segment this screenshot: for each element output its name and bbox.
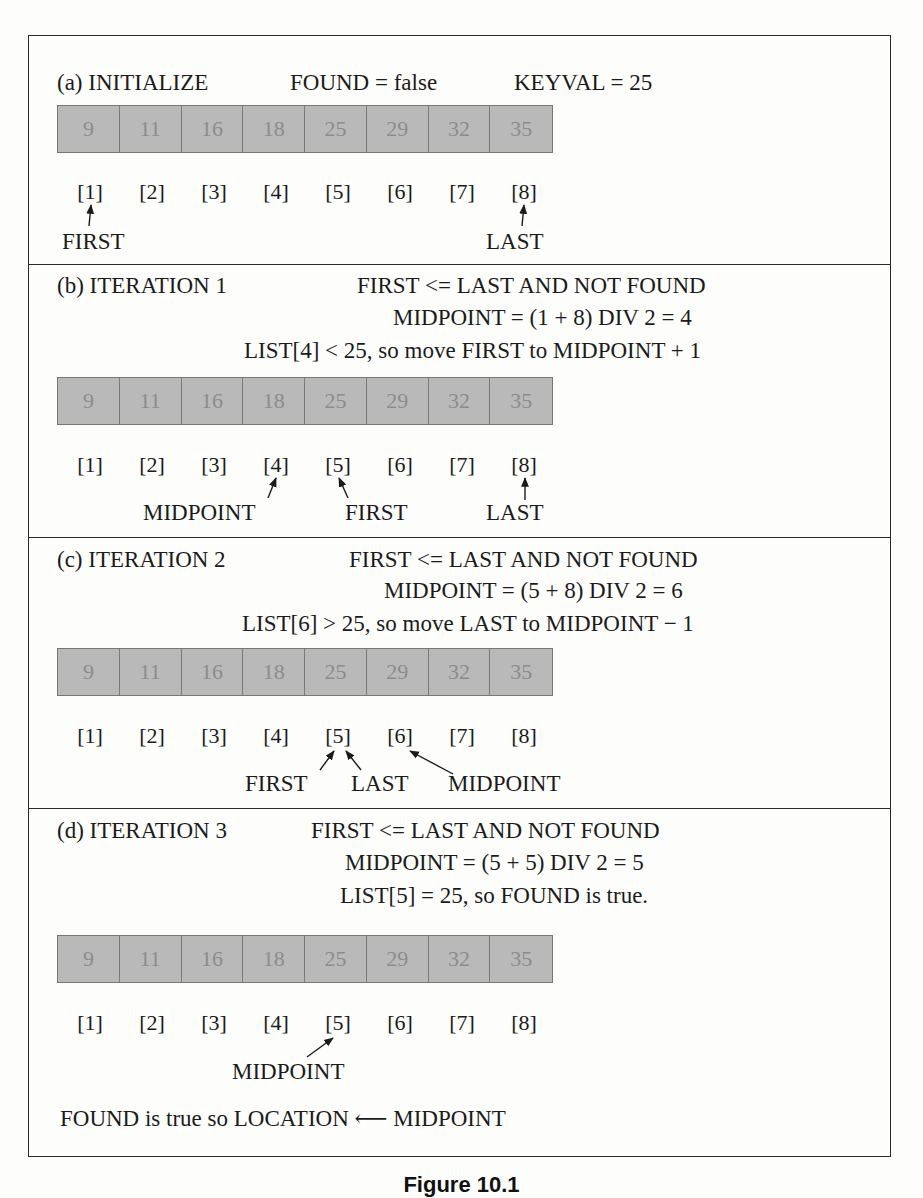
list-cell: 25 <box>305 936 367 982</box>
list-cell: 16 <box>182 378 244 424</box>
list-array: 9 11 16 18 25 29 32 35 <box>57 935 553 983</box>
index-label: [7] <box>431 453 493 477</box>
index-label: [1] <box>59 1011 121 1035</box>
list-cell: 25 <box>305 649 367 695</box>
list-cell: 32 <box>429 378 491 424</box>
section-d-comparison: LIST[5] = 25, so FOUND is true. <box>340 883 648 909</box>
section-b-condition: FIRST <= LAST AND NOT FOUND <box>357 273 706 299</box>
list-cell: 35 <box>490 106 552 152</box>
list-cell: 18 <box>243 106 305 152</box>
pointer-label-midpoint: MIDPOINT <box>448 771 560 797</box>
index-label: [6] <box>369 1011 431 1035</box>
list-cell: 11 <box>120 378 182 424</box>
list-cell: 32 <box>429 936 491 982</box>
list-cell: 16 <box>182 106 244 152</box>
index-label: [3] <box>183 724 245 748</box>
index-label: [2] <box>121 724 183 748</box>
list-array: 9 11 16 18 25 29 32 35 <box>57 105 553 153</box>
index-label: [5] <box>307 724 369 748</box>
list-cell: 35 <box>490 649 552 695</box>
index-label: [5] <box>307 453 369 477</box>
list-cell: 16 <box>182 936 244 982</box>
index-label: [8] <box>493 453 555 477</box>
index-label: [2] <box>121 453 183 477</box>
index-label: [8] <box>493 1011 555 1035</box>
index-label: [5] <box>307 1011 369 1035</box>
index-label: [2] <box>121 1011 183 1035</box>
section-c-midpoint-calc: MIDPOINT = (5 + 8) DIV 2 = 6 <box>384 578 683 604</box>
section-b-comparison: LIST[4] < 25, so move FIRST to MIDPOINT … <box>244 338 701 364</box>
index-label: [6] <box>369 180 431 204</box>
section-divider-cd <box>28 808 891 809</box>
section-b-midpoint-calc: MIDPOINT = (1 + 8) DIV 2 = 4 <box>393 305 692 331</box>
index-label: [7] <box>431 1011 493 1035</box>
list-cell: 9 <box>58 649 120 695</box>
pointer-label-first: FIRST <box>62 229 125 255</box>
index-label: [7] <box>431 724 493 748</box>
index-label: [2] <box>121 180 183 204</box>
list-cell: 18 <box>243 649 305 695</box>
section-c-condition: FIRST <= LAST AND NOT FOUND <box>349 547 698 573</box>
list-array: 9 11 16 18 25 29 32 35 <box>57 648 553 696</box>
list-cell: 25 <box>305 106 367 152</box>
index-label: [4] <box>245 180 307 204</box>
index-label: [5] <box>307 180 369 204</box>
section-d-heading: (d) ITERATION 3 <box>57 818 227 844</box>
list-cell: 11 <box>120 649 182 695</box>
pointer-label-last: LAST <box>486 500 544 526</box>
index-label: [3] <box>183 180 245 204</box>
section-d-condition: FIRST <= LAST AND NOT FOUND <box>311 818 660 844</box>
section-a-found-init: FOUND = false <box>290 70 437 96</box>
section-c-comparison: LIST[6] > 25, so move LAST to MIDPOINT −… <box>242 611 694 637</box>
index-label: [6] <box>369 724 431 748</box>
list-cell: 18 <box>243 936 305 982</box>
index-label: [1] <box>59 180 121 204</box>
list-cell: 32 <box>429 106 491 152</box>
index-label: [4] <box>245 724 307 748</box>
pointer-label-midpoint: MIDPOINT <box>143 500 255 526</box>
section-d-midpoint-calc: MIDPOINT = (5 + 5) DIV 2 = 5 <box>345 850 644 876</box>
list-cell: 18 <box>243 378 305 424</box>
pointer-label-first: FIRST <box>345 500 408 526</box>
index-label: [1] <box>59 724 121 748</box>
pointer-label-midpoint: MIDPOINT <box>232 1059 344 1085</box>
list-cell: 29 <box>367 378 429 424</box>
section-divider-ab <box>28 264 891 265</box>
section-a-heading: (a) INITIALIZE <box>57 70 208 96</box>
list-cell: 32 <box>429 649 491 695</box>
list-cell: 16 <box>182 649 244 695</box>
list-cell: 9 <box>58 378 120 424</box>
pointer-label-first: FIRST <box>245 771 308 797</box>
index-label: [6] <box>369 453 431 477</box>
index-label: [7] <box>431 180 493 204</box>
index-label: [8] <box>493 180 555 204</box>
list-cell: 35 <box>490 378 552 424</box>
section-c-heading: (c) ITERATION 2 <box>57 547 226 573</box>
pointer-label-last: LAST <box>486 229 544 255</box>
list-cell: 25 <box>305 378 367 424</box>
pointer-label-last: LAST <box>351 771 409 797</box>
list-cell: 11 <box>120 936 182 982</box>
section-b-heading: (b) ITERATION 1 <box>57 273 227 299</box>
list-cell: 29 <box>367 936 429 982</box>
figure-caption: Figure 10.1 <box>0 1172 923 1198</box>
index-label: [4] <box>245 453 307 477</box>
list-cell: 29 <box>367 106 429 152</box>
section-d-conclusion: FOUND is true so LOCATION ⟵ MIDPOINT <box>60 1106 506 1132</box>
list-cell: 11 <box>120 106 182 152</box>
list-cell: 9 <box>58 106 120 152</box>
index-label: [3] <box>183 1011 245 1035</box>
index-label: [4] <box>245 1011 307 1035</box>
list-cell: 9 <box>58 936 120 982</box>
list-cell: 29 <box>367 649 429 695</box>
index-label: [3] <box>183 453 245 477</box>
index-label: [1] <box>59 453 121 477</box>
section-divider-bc <box>28 537 891 538</box>
list-cell: 35 <box>490 936 552 982</box>
section-a-keyval: KEYVAL = 25 <box>514 70 652 96</box>
index-label: [8] <box>493 724 555 748</box>
list-array: 9 11 16 18 25 29 32 35 <box>57 377 553 425</box>
